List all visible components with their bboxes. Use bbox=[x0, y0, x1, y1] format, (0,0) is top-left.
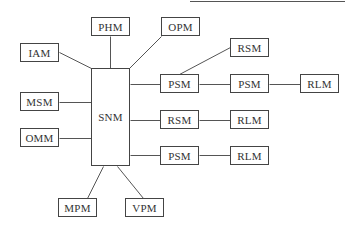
node-snm: SNM bbox=[91, 68, 130, 166]
node-psm-3: PSM bbox=[160, 146, 199, 165]
edge-iam-snm bbox=[60, 53, 92, 69]
edge-psm1-rsm1 bbox=[180, 48, 231, 75]
node-mpm: MPM bbox=[58, 198, 97, 217]
node-psm-2: PSM bbox=[230, 74, 269, 93]
node-psm-1: PSM bbox=[160, 74, 199, 93]
edge-snm-vpm bbox=[118, 167, 144, 199]
block-diagram: IAM PHM OPM SNM MSM OMM PSM RSM PSM RLM … bbox=[0, 0, 355, 230]
node-rsm-2: RSM bbox=[160, 110, 199, 129]
node-opm: OPM bbox=[161, 17, 200, 36]
edge-opm-snm bbox=[130, 37, 162, 69]
node-rsm-1: RSM bbox=[230, 38, 269, 57]
node-phm: PHM bbox=[91, 17, 130, 36]
node-msm: MSM bbox=[20, 92, 59, 111]
node-vpm: VPM bbox=[125, 198, 164, 217]
node-omm: OMM bbox=[20, 128, 59, 147]
node-rlm-1: RLM bbox=[300, 74, 339, 93]
node-rlm-2: RLM bbox=[230, 110, 269, 129]
node-iam: IAM bbox=[20, 43, 59, 62]
node-rlm-3: RLM bbox=[230, 146, 269, 165]
edge-snm-mpm bbox=[88, 167, 104, 199]
